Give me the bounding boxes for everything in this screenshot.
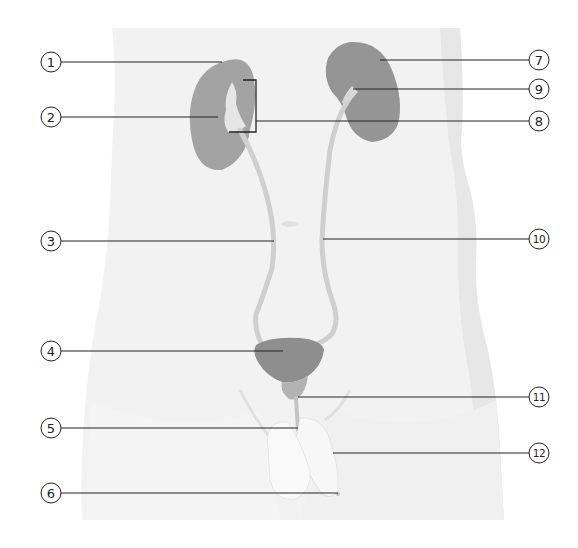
callout-number-4: 4 [47, 344, 55, 359]
callout-number-5: 5 [47, 421, 55, 436]
urinary-system-diagram: 1 2 3 4 5 6 7 [0, 0, 578, 548]
callout-number-3: 3 [47, 234, 55, 249]
callout-number-11: 11 [533, 391, 545, 403]
navel [281, 221, 299, 227]
callout-number-10: 10 [533, 233, 545, 245]
callout-number-2: 2 [47, 110, 55, 125]
callout-number-1: 1 [47, 55, 55, 70]
callout-number-6: 6 [47, 486, 55, 501]
callout-number-9: 9 [535, 82, 543, 97]
callout-number-8: 8 [535, 114, 543, 129]
callout-number-7: 7 [535, 53, 543, 68]
callout-number-12: 12 [533, 447, 545, 459]
